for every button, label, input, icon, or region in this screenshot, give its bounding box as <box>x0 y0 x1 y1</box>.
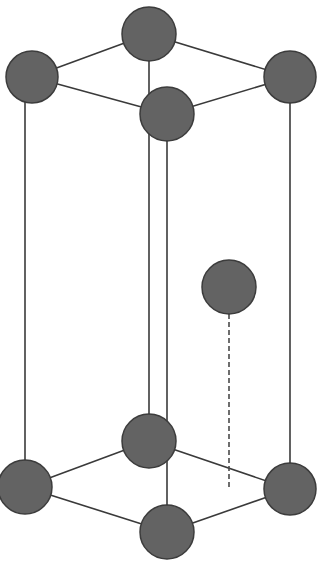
atom-bottom-back <box>122 414 176 468</box>
atom-interior <box>202 260 256 314</box>
atom-top-back <box>122 7 176 61</box>
atom-top-right <box>264 51 316 103</box>
unit-cell-diagram <box>0 0 328 569</box>
unit-cell-canvas <box>0 0 328 569</box>
atom-top-front <box>140 87 194 141</box>
atom-top-left <box>6 51 58 103</box>
lattice-atoms <box>0 7 316 559</box>
atom-bottom-left <box>0 460 52 514</box>
atom-bottom-right <box>264 463 316 515</box>
atom-bottom-front <box>140 505 194 559</box>
